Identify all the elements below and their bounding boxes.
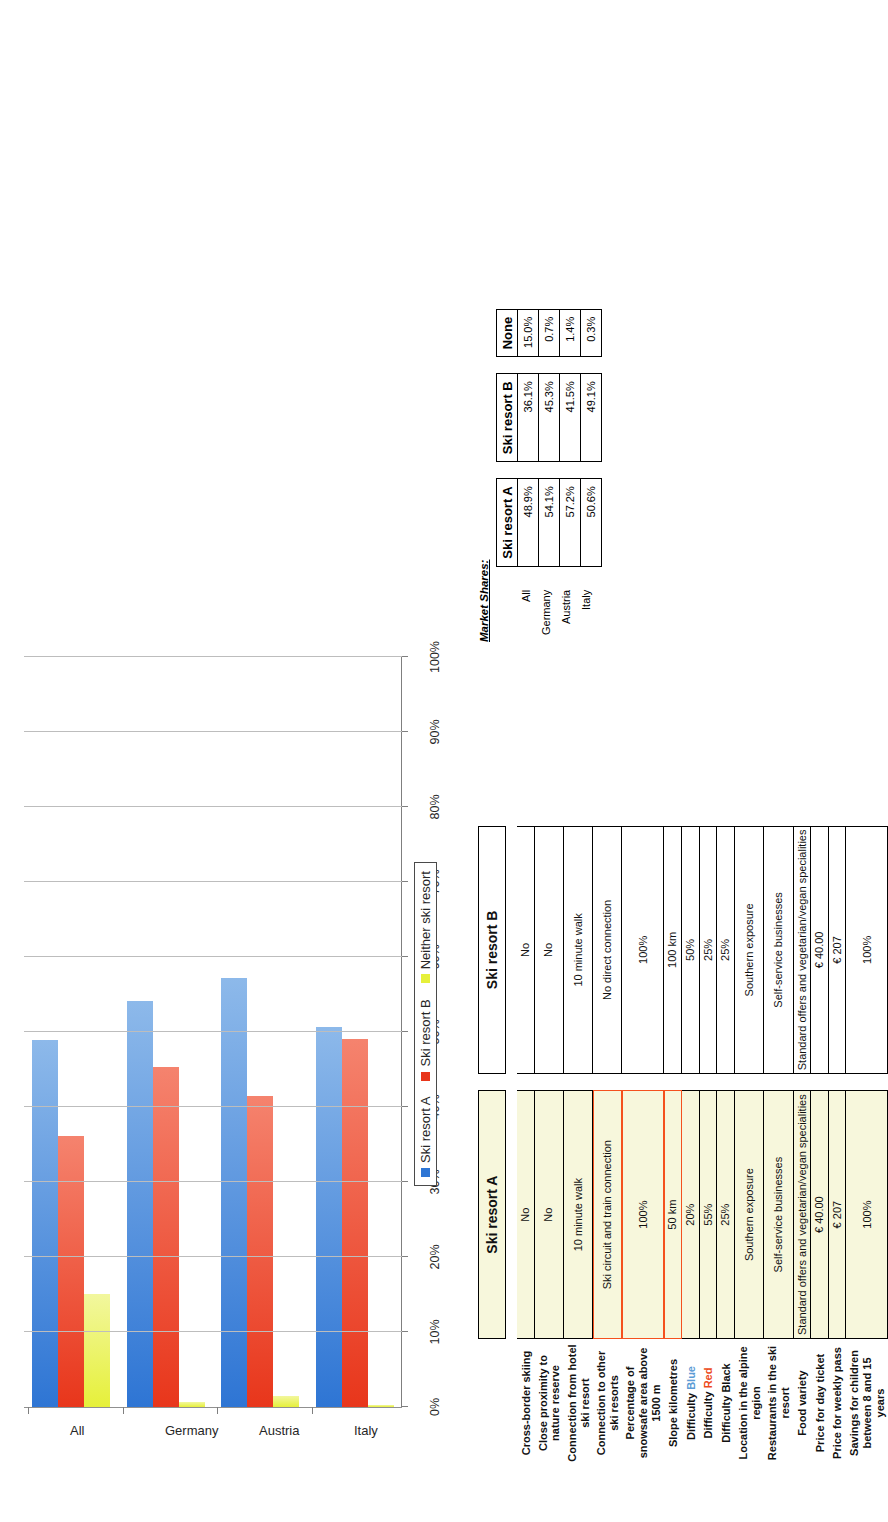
chart-legend-item: Neither ski resort [418, 871, 433, 983]
chart-gridline [24, 1031, 402, 1032]
cell-ski-resort-b: 100 km [664, 826, 682, 1075]
chart-legend-swatch [421, 974, 430, 983]
market-shares-value: 54.1% [539, 479, 560, 567]
market-shares-tables: AllGermanyAustriaItalySki resort A48.9%5… [496, 309, 602, 642]
chart-bar [247, 1096, 273, 1407]
table-row-label: Difficulty Blue [682, 1339, 700, 1467]
chart-bar-group: Germany [123, 657, 209, 1407]
chart-bar-group: All [28, 657, 114, 1407]
table-row-label: Restaurants in the ski resort [764, 1339, 793, 1467]
chart-legend-swatch [421, 1168, 430, 1177]
market-shares-value: 0.7% [539, 309, 560, 357]
table-row: Restaurants in the ski resortSelf-servic… [764, 826, 793, 1467]
table-row-label: Difficulty Black [717, 1339, 735, 1467]
table-column-gap [735, 1074, 764, 1090]
chart-axis-tick [402, 806, 408, 807]
market-shares-value: 15.0% [518, 309, 539, 357]
table-column-gap [717, 1074, 735, 1090]
table-row-label: Location in the alpine region [735, 1339, 764, 1467]
market-shares-value: 57.2% [560, 479, 581, 567]
table-row: 41.5% [560, 374, 581, 462]
table-row: Austria [556, 583, 576, 642]
market-shares-title: Market Shares: [478, 309, 490, 642]
chart-category-label: All [70, 1423, 84, 1438]
chart-bar [179, 1402, 205, 1407]
chart-bar-groups: AllGermanyAustriaItaly [24, 657, 402, 1407]
chart-axis-tick [402, 881, 408, 882]
market-shares-header: Ski resort B [497, 374, 518, 462]
cell-ski-resort-b: No [517, 826, 535, 1075]
table-column-gap [700, 1074, 718, 1090]
chart-axis-tick-label: 10% [428, 1319, 442, 1344]
table-row: 50.6% [581, 479, 602, 567]
table-column-gap [517, 1074, 535, 1090]
chart-legend-label: Neither ski resort [418, 871, 433, 969]
chart-bar [342, 1039, 368, 1407]
chart-axis-tick [402, 1256, 408, 1257]
table-spacer-cell [506, 1074, 517, 1090]
market-shares-block: Market Shares: AllGermanyAustriaItalySki… [478, 309, 602, 642]
market-shares-row-labels: AllGermanyAustriaItaly [496, 583, 596, 642]
cell-ski-resort-b: € 207 [829, 826, 847, 1075]
chart-gridline [24, 731, 402, 732]
market-shares-row-label: Italy [576, 583, 596, 642]
market-shares-row-label: Austria [556, 583, 576, 642]
chart-bar [273, 1397, 299, 1408]
chart-axis-tick-label: 100% [428, 641, 442, 673]
ski-resort-comparison-table: Ski resort ASki resort BCross-border ski… [478, 826, 888, 1467]
chart-bar [32, 1040, 58, 1407]
chart-bar [153, 1067, 179, 1407]
table-column-gap [622, 1074, 664, 1090]
table-column-gap [535, 1074, 564, 1090]
table-row-label: Price for day ticket [811, 1339, 829, 1467]
chart-gridline [24, 1256, 402, 1257]
market-shares-row-label: Germany [536, 583, 556, 642]
table-column-gap [794, 1074, 812, 1090]
market-shares-value: 49.1% [581, 374, 602, 462]
table-row: Connection to other ski resortsSki circu… [593, 826, 622, 1467]
table-header-row: None [497, 309, 518, 357]
chart-bar [58, 1136, 84, 1407]
row-label-colored-word: Blue [685, 1366, 697, 1390]
table-header-row: Ski resort B [497, 374, 518, 462]
chart-legend-item: Ski resort B [418, 999, 433, 1080]
chart-axis-tick [402, 656, 408, 657]
cell-ski-resort-a: 55% [700, 1090, 718, 1339]
table-column-gap [564, 1074, 593, 1090]
chart-axis-tick [402, 1106, 408, 1107]
cell-ski-resort-b: Self-service businesses [764, 826, 793, 1075]
cell-ski-resort-a: € 40.00 [811, 1090, 829, 1339]
chart-axis-tick-label: 80% [428, 794, 442, 819]
table-row: Difficulty Red55%25% [700, 826, 718, 1467]
table-row: 48.9% [518, 479, 539, 567]
cell-ski-resort-b: No direct connection [593, 826, 622, 1075]
table-row: Price for weekly pass€ 207€ 207 [829, 826, 847, 1467]
cell-ski-resort-b: € 40.00 [811, 826, 829, 1075]
table-row: Connection from hotel ski resort10 minut… [564, 826, 593, 1467]
chart-axis-tick [402, 1331, 408, 1332]
chart-category-tick [312, 1407, 313, 1414]
cell-ski-resort-b: Southern exposure [735, 826, 764, 1075]
table-row-label: Savings for children between 8 and 15 ye… [846, 1339, 888, 1467]
chart-gridline [24, 956, 402, 957]
chart-gridline [24, 806, 402, 807]
table-row: 0.7% [539, 309, 560, 357]
market-shares-value: 0.3% [581, 309, 602, 357]
cell-ski-resort-b: Standard offers and vegetarian/vegan spe… [794, 826, 812, 1075]
table-row: Percentage of snowsafe area above 1500 m… [622, 826, 664, 1467]
market-shares-row-label: All [516, 583, 536, 642]
cell-ski-resort-a: Ski circuit and train connection [593, 1090, 622, 1339]
chart-legend-label: Ski resort B [418, 999, 433, 1066]
chart-legend-swatch [421, 1072, 430, 1081]
row-label-text: Difficulty [702, 1388, 714, 1438]
cell-ski-resort-b: 25% [700, 826, 718, 1075]
chart-bar [368, 1405, 394, 1407]
table-column-gap [682, 1074, 700, 1090]
row-label-colored-word: Red [702, 1368, 714, 1389]
market-shares-value: 50.6% [581, 479, 602, 567]
table-spacer-cell [506, 1339, 517, 1467]
chart-category-label: Italy [354, 1423, 378, 1438]
chart-gridline [24, 1106, 402, 1107]
table-row-label: Cross-border skiing [517, 1339, 535, 1467]
